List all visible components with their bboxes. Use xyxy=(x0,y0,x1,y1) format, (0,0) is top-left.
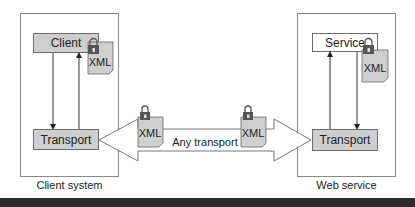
channel-right-xml-label: XML xyxy=(242,127,265,139)
service-xml-doc-icon xyxy=(362,39,388,82)
channel-left-xml-label: XML xyxy=(139,127,162,139)
any-transport-label: Any transport xyxy=(172,136,237,148)
service-xml-label: XML xyxy=(364,62,387,74)
client-xml-label: XML xyxy=(89,56,112,68)
bottom-rule xyxy=(0,198,415,207)
diagram-graphics: XML XML XML XML Any transport xyxy=(0,0,415,207)
